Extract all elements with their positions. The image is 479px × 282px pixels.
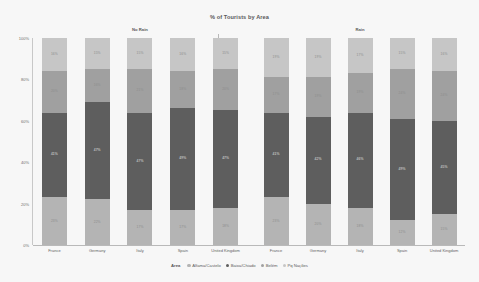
bar-group[interactable]: 15%20%47%18% [213,38,238,245]
bar-segment[interactable]: 22% [85,199,110,245]
bar-segment[interactable]: 21% [127,69,152,112]
legend-swatch-icon [187,264,190,267]
legend-label: Alfama/Castelo [192,263,220,268]
legend-swatch-icon [261,264,264,267]
bar-segment[interactable]: 46% [348,113,373,208]
bar-segment-label: 47% [222,157,229,160]
bar-segment[interactable]: 18% [348,208,373,245]
y-axis-tick: 60% [21,118,29,123]
bar-segment-label: 15% [94,52,101,55]
bar-segment-label: 42% [315,158,322,161]
bar-group[interactable]: 19%19%42%20% [306,38,331,245]
bar-segment-label: 17% [179,226,186,229]
bar-segment-label: 18% [222,225,229,228]
bar-segment[interactable]: 16% [85,69,110,102]
legend-item[interactable]: Pq Nações [283,263,308,268]
bar-segment[interactable]: 41% [42,113,67,198]
bar-segment[interactable]: 47% [127,113,152,210]
bar-group[interactable]: 15%16%47%22% [85,38,110,245]
bar-segment[interactable]: 15% [390,38,415,69]
bar-segment[interactable]: 16% [42,38,67,71]
bar-segment[interactable]: 15% [432,214,457,245]
bar-segment[interactable]: 17% [348,38,373,73]
x-axis-labels-no-rain: FranceGermanyItalySpainUnited Kingdom [33,248,247,260]
bar-segment[interactable]: 49% [390,119,415,220]
bar-segment[interactable]: 19% [306,77,331,116]
bar-segment[interactable]: 12% [390,220,415,245]
x-axis-label: Italy [339,248,381,253]
bar-segment-label: 20% [222,88,229,91]
bar-segment-label: 12% [399,231,406,234]
bar-segment[interactable]: 20% [306,204,331,245]
legend-item[interactable]: Belém [261,263,278,268]
bar-segment[interactable]: 24% [390,69,415,119]
legend-swatch-icon [226,264,229,267]
bar-segment-label: 49% [179,157,186,160]
x-axis-label: France [33,248,75,253]
bar-segment[interactable]: 47% [213,110,238,207]
bar-segment[interactable]: 23% [264,197,289,245]
bar-segment-label: 15% [441,228,448,231]
bar-segment-label: 18% [179,88,186,91]
bar-segment[interactable]: 17% [170,210,195,245]
legend-label: Baixa/Chiado [231,263,256,268]
bar-segment[interactable]: 45% [432,121,457,214]
bar-group[interactable]: 15%21%47%17% [127,38,152,245]
bar-segment[interactable]: 20% [42,71,67,112]
bar-group[interactable]: 16%18%49%17% [170,38,195,245]
bar-segment[interactable]: 16% [432,38,457,71]
bar-group[interactable]: 16%24%45%15% [432,38,457,245]
bar-segment-label: 46% [357,158,364,161]
y-axis-tick: 40% [21,160,29,165]
panel-rain: Rain 19%17%41%23%19%19%42%20%17%19%46%18… [255,38,465,245]
bar-segment[interactable]: 19% [348,73,373,112]
bar-segment[interactable]: 19% [264,38,289,77]
legend-label: Pq Nações [287,263,307,268]
y-axis-tick: 20% [21,201,29,206]
x-axis-labels-rain: FranceGermanyItalySpainUnited Kingdom [255,248,465,260]
bar-segment-label: 47% [137,160,144,163]
bar-group[interactable]: 16%20%41%23% [42,38,67,245]
bar-segment[interactable]: 23% [42,197,67,245]
legend-item[interactable]: Baixa/Chiado [226,263,256,268]
bar-group[interactable]: 17%19%46%18% [348,38,373,245]
bar-segment[interactable]: 20% [213,69,238,110]
bar-segment-label: 19% [315,56,322,59]
bar-segment[interactable]: 15% [127,38,152,69]
bar-segment-label: 16% [94,84,101,87]
bar-segment-label: 21% [137,89,144,92]
bar-segment[interactable]: 18% [170,71,195,108]
bar-segment[interactable]: 16% [170,38,195,71]
bar-segment[interactable]: 18% [213,208,238,245]
x-axis-line [33,245,465,246]
bar-segment[interactable]: 17% [264,77,289,112]
y-axis: 100%80%60%40%20%0% [0,38,33,245]
bar-segment[interactable]: 42% [306,117,331,204]
bar-segment[interactable]: 19% [306,38,331,77]
legend-title: Area [171,263,180,268]
bar-segment-label: 16% [51,53,58,56]
bar-segment[interactable]: 24% [432,71,457,121]
bar-segment-label: 24% [441,94,448,97]
panel-no-rain: No Rain 16%20%41%23%15%16%47%22%15%21%47… [33,38,247,245]
legend-item[interactable]: Alfama/Castelo [187,263,220,268]
bar-segment-label: 19% [315,95,322,98]
bar-segment[interactable]: 47% [85,102,110,199]
legend: Area Alfama/CasteloBaixa/ChiadoBelémPq N… [0,263,479,268]
legend-label: Belém [266,263,278,268]
x-axis-label: United Kingdom [205,248,247,253]
bar-group[interactable]: 19%17%41%23% [264,38,289,245]
bar-segment[interactable]: 41% [264,113,289,198]
bar-segment[interactable]: 17% [127,210,152,245]
bar-segment[interactable]: 15% [85,38,110,69]
bar-segment-label: 41% [51,153,58,156]
bar-segment-label: 23% [273,220,280,223]
bar-segment[interactable]: 49% [170,108,195,209]
x-axis-label: France [255,248,297,253]
bar-segment-label: 23% [51,220,58,223]
bar-segment-label: 45% [441,166,448,169]
bar-segment[interactable]: 15% [213,38,238,69]
bar-segment-label: 18% [357,225,364,228]
bar-segment-label: 20% [51,90,58,93]
bar-group[interactable]: 15%24%49%12% [390,38,415,245]
